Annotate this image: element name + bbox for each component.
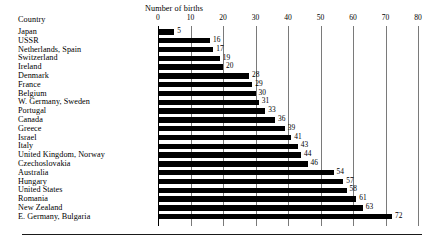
bar-row: 33 [158, 107, 418, 116]
bar-value-label: 54 [337, 168, 344, 176]
bar [158, 73, 249, 78]
bar [158, 170, 334, 175]
bar-row: 28 [158, 72, 418, 81]
bar-row: 72 [158, 213, 418, 222]
bar-row: 46 [158, 160, 418, 169]
bar [158, 196, 356, 201]
bar-value-label: 72 [395, 212, 402, 220]
bar [158, 82, 252, 87]
bar-row: 63 [158, 204, 418, 213]
bar-row: 31 [158, 98, 418, 107]
bar-row: 41 [158, 134, 418, 143]
value-axis-tick-label: 0 [156, 14, 160, 22]
bar [158, 56, 220, 61]
bar-row: 43 [158, 142, 418, 151]
value-axis-tick-label: 80 [414, 14, 422, 22]
bar [158, 91, 256, 96]
bar-row: 39 [158, 125, 418, 134]
bar-value-label: 58 [350, 185, 357, 193]
category-label: Greece [18, 125, 153, 134]
bar [158, 144, 298, 149]
bar [158, 117, 275, 122]
bar-value-label: 33 [268, 106, 275, 114]
bar-row: 17 [158, 46, 418, 55]
plot-area: 01020304050607080 5161719202829303133363… [158, 24, 418, 226]
bar-row: 58 [158, 186, 418, 195]
bars-layer: 5161719202829303133363941434446545758616… [158, 28, 418, 226]
bar [158, 100, 259, 105]
bar [158, 152, 301, 157]
bar-row: 19 [158, 54, 418, 63]
value-axis-tick-label: 60 [349, 14, 357, 22]
bar [158, 64, 223, 69]
value-axis-tick-label: 30 [252, 14, 260, 22]
footer-rule [22, 234, 422, 235]
bar-chart-figure: Number of births Country JapanUSSRNether… [0, 0, 442, 250]
bar-value-label: 36 [278, 115, 285, 123]
bar [158, 161, 308, 166]
bar [158, 179, 343, 184]
bar-row: 29 [158, 81, 418, 90]
category-label: Israel [18, 134, 153, 143]
value-axis-tick-label: 70 [382, 14, 390, 22]
gridline [418, 26, 419, 226]
value-axis-tick-label: 40 [284, 14, 292, 22]
bar-row: 30 [158, 90, 418, 99]
bar [158, 108, 265, 113]
bar-value-label: 20 [226, 62, 233, 70]
category-label-list: JapanUSSRNetherlands, SpainSwitzerlandIr… [18, 28, 153, 222]
bar-row: 20 [158, 63, 418, 72]
bar-value-label: 63 [366, 203, 373, 211]
bar-row: 16 [158, 37, 418, 46]
category-axis-title: Country [18, 15, 46, 24]
bar-row: 5 [158, 28, 418, 37]
bar [158, 214, 392, 219]
bar [158, 29, 174, 34]
value-axis-tick-label: 20 [219, 14, 227, 22]
value-axis-title: Number of births [145, 4, 203, 13]
bar [158, 126, 285, 131]
value-axis-tick-label: 10 [187, 14, 195, 22]
bar-row: 54 [158, 169, 418, 178]
bar-row: 44 [158, 151, 418, 160]
bar-value-label: 17 [216, 45, 223, 53]
bar-value-label: 46 [311, 159, 318, 167]
bar [158, 38, 210, 43]
bar [158, 205, 363, 210]
bar-row: 57 [158, 178, 418, 187]
category-label: E. Germany, Bulgaria [18, 213, 153, 222]
value-axis-tick-label: 50 [317, 14, 325, 22]
bar [158, 135, 291, 140]
bar [158, 47, 213, 52]
bar [158, 188, 347, 193]
bar-row: 61 [158, 195, 418, 204]
bar-value-label: 5 [177, 27, 181, 35]
